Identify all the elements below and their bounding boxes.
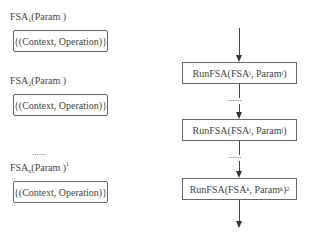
right-ellipsis-2: ...... — [228, 150, 242, 160]
arrow-down-icon — [236, 55, 242, 62]
flow-line-end — [239, 200, 240, 222]
run-box-j: RunFSA(FSAj, Paramj) — [182, 119, 297, 141]
fsa-1-label: FSA1(Param ) — [10, 11, 66, 23]
fsa-n-label: FSAn(Param )1 — [10, 161, 69, 174]
fsa-2-box: {(Context, Operation)} — [13, 94, 108, 116]
arrow-down-icon — [236, 112, 242, 119]
fsa-n-content: {(Context, Operation)} — [14, 187, 107, 198]
arrow-down-icon — [236, 221, 242, 228]
arrow-down-icon — [236, 171, 242, 178]
right-ellipsis-1: ...... — [228, 93, 242, 103]
left-ellipsis: ...... — [32, 147, 46, 157]
run-box-k: RunFSA(FSAk, Paramk)2 — [182, 178, 297, 200]
fsa-1-content: {(Context, Operation)} — [14, 36, 107, 47]
flow-line-start — [239, 28, 240, 56]
fsa-2-label: FSA2(Param ) — [10, 75, 66, 87]
run-box-i: RunFSA(FSAi, Parami) — [182, 62, 297, 84]
fsa-1-box: {(Context, Operation)} — [13, 30, 108, 52]
fsa-n-box: {(Context, Operation)} — [13, 181, 108, 203]
fsa-2-content: {(Context, Operation)} — [14, 100, 107, 111]
